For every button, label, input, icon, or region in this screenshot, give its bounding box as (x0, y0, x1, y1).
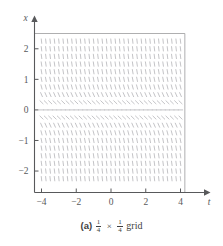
slope-mark (128, 61, 129, 66)
slope-mark (141, 168, 142, 173)
slope-mark (46, 46, 47, 51)
slope-mark (158, 138, 159, 143)
slope-mark (111, 161, 112, 166)
slope-mark (88, 92, 90, 97)
slope-mark (119, 146, 120, 151)
slope-mark (162, 84, 163, 89)
slope-mark (136, 123, 138, 128)
slope-mark (54, 69, 55, 74)
slope-mark (119, 138, 120, 143)
slope-mark (123, 130, 124, 135)
slope-mark (137, 176, 138, 181)
slope-mark (84, 123, 86, 128)
slope-mark (171, 84, 172, 89)
slope-mark (50, 77, 51, 82)
slope-mark (132, 92, 134, 97)
slope-mark (115, 153, 116, 158)
slope-mark (53, 116, 57, 120)
slope-mark (128, 77, 129, 82)
slope-mark (63, 46, 64, 51)
slope-mark (171, 130, 172, 135)
slope-mark (176, 46, 177, 51)
slope-mark (106, 61, 107, 66)
slope-mark (179, 116, 183, 120)
slope-mark (124, 153, 125, 158)
slope-mark (176, 77, 177, 82)
slope-mark (79, 116, 83, 120)
slope-mark (154, 146, 155, 151)
slope-mark (93, 168, 94, 173)
slope-mark (132, 84, 133, 89)
slope-mark (132, 146, 133, 151)
slope-mark (115, 130, 116, 135)
slope-mark (58, 84, 59, 89)
slope-mark (87, 100, 91, 104)
slope-mark (171, 54, 172, 59)
slope-mark (167, 153, 168, 158)
slope-mark (163, 54, 164, 59)
slope-mark (132, 46, 133, 51)
slope-mark (102, 77, 103, 82)
slope-mark (162, 92, 164, 97)
slope-mark (137, 161, 138, 166)
slope-mark (180, 77, 181, 82)
slope-mark (80, 153, 81, 158)
slope-mark (163, 46, 164, 51)
slope-mark (132, 138, 133, 143)
slope-mark (171, 69, 172, 74)
slope-mark (71, 146, 72, 151)
slope-mark (128, 69, 129, 74)
slope-mark (123, 84, 124, 89)
slope-mark (127, 92, 129, 97)
slope-mark (46, 161, 47, 166)
slope-mark (71, 92, 73, 97)
slope-mark (141, 176, 142, 181)
slope-mark (124, 77, 125, 82)
slope-mark (41, 138, 42, 143)
slope-mark (158, 130, 159, 135)
slope-mark (176, 54, 177, 59)
slope-mark (158, 69, 159, 74)
slope-mark (150, 176, 151, 181)
slope-mark (72, 61, 73, 66)
slope-mark (54, 146, 55, 151)
slope-mark (85, 146, 86, 151)
slope-mark (132, 123, 134, 128)
slope-mark (76, 84, 77, 89)
slope-mark (154, 77, 155, 82)
slope-mark (106, 161, 107, 166)
slope-mark (50, 69, 51, 74)
slope-mark (102, 161, 103, 166)
slope-mark (141, 61, 142, 66)
slope-mark (87, 116, 91, 120)
slope-mark (166, 123, 168, 128)
slope-mark (58, 153, 59, 158)
slope-mark (102, 168, 103, 173)
slope-mark (175, 92, 177, 97)
slope-mark (41, 39, 42, 44)
slope-mark (136, 92, 138, 97)
slope-mark (62, 123, 64, 128)
slope-mark (167, 161, 168, 166)
slope-mark (50, 176, 51, 181)
slope-mark (111, 61, 112, 66)
slope-mark (54, 138, 55, 143)
slope-mark (93, 153, 94, 158)
slope-mark (101, 123, 103, 128)
t-axis-tick-label: −2 (71, 197, 81, 207)
slope-mark (145, 39, 146, 44)
slope-mark (85, 61, 86, 66)
slope-mark (174, 116, 178, 120)
slope-mark (41, 61, 42, 66)
slope-mark (54, 84, 55, 89)
slope-mark (41, 146, 42, 151)
slope-mark (154, 130, 155, 135)
slope-mark (145, 161, 146, 166)
slope-mark (132, 54, 133, 59)
slope-mark (180, 46, 181, 51)
slope-mark (111, 46, 112, 51)
slope-mark (180, 130, 181, 135)
slope-mark (132, 130, 133, 135)
slope-mark (76, 54, 77, 59)
slope-mark (128, 130, 129, 135)
